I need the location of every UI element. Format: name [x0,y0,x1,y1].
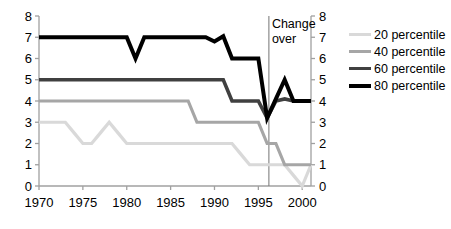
percentile-line-chart: 876543210 876543210 19701975198019851990… [0,0,451,229]
x-axis-label: 1970 [18,196,60,209]
legend-item-label: 60 percentile [374,62,446,76]
legend-swatch-icon [349,67,371,71]
y-axis-right-label: 2 [319,137,337,150]
x-axis-label: 1980 [106,196,148,209]
legend-item[interactable]: 60 percentile [349,60,451,77]
y-axis-right-label: 3 [319,116,337,129]
y-axis-right-label: 4 [319,95,337,108]
x-axis-label: 1975 [62,196,104,209]
y-axis-right-label: 7 [319,31,337,44]
y-axis-right-label: 1 [319,158,337,171]
series-line-80 [39,36,311,118]
series-line-20 [39,122,311,186]
x-axis-label: 1985 [150,196,192,209]
legend-swatch-icon [349,84,371,88]
legend-item[interactable]: 40 percentile [349,43,451,60]
legend-item-label: 40 percentile [374,45,446,59]
y-axis-right-label: 8 [319,10,337,23]
y-axis-right-label: 0 [319,180,337,193]
y-axis-left-label: 2 [14,137,32,150]
change-over-label-line1: Change [272,17,316,31]
legend-item-label: 80 percentile [374,79,446,93]
legend-item-label: 20 percentile [374,28,446,42]
y-axis-left-label: 3 [14,116,32,129]
legend-swatch-icon [349,33,371,36]
change-over-label-line2: over [272,32,296,46]
y-axis-left-label: 5 [14,73,32,86]
legend-item[interactable]: 20 percentile [349,26,451,43]
y-axis-left-label: 1 [14,158,32,171]
y-axis-right-label: 5 [319,73,337,86]
y-axis-left-label: 6 [14,52,32,65]
chart-legend: 20 percentile40 percentile60 percentile8… [349,26,451,94]
y-axis-left-label: 4 [14,95,32,108]
y-axis-right-label: 6 [319,52,337,65]
legend-item[interactable]: 80 percentile [349,77,451,94]
y-axis-left-label: 0 [14,180,32,193]
y-axis-left-label: 7 [14,31,32,44]
legend-swatch-icon [349,50,371,53]
x-axis-label: 1995 [237,196,279,209]
x-axis-label: 2000 [281,196,323,209]
x-axis-label: 1990 [193,196,235,209]
y-axis-left-label: 8 [14,10,32,23]
